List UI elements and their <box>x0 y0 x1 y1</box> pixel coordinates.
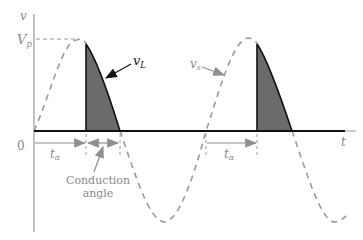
origin-label: 0 <box>17 140 25 152</box>
vs-label: vs <box>190 58 201 72</box>
conduction-leader <box>94 147 103 172</box>
vl-leader <box>106 64 131 78</box>
load-pulse-1 <box>86 44 120 131</box>
t-alpha-label-2: tα <box>224 148 234 162</box>
conduction-angle-label: Conduction angle <box>66 174 130 200</box>
vs-leader <box>202 67 224 75</box>
waveform-diagram <box>0 0 363 240</box>
load-pulse-2 <box>257 44 292 131</box>
vl-label: vL <box>133 54 146 69</box>
x-axis-label: t <box>341 136 346 148</box>
y-axis-label: v <box>20 10 27 22</box>
vp-label: Vp <box>17 33 32 48</box>
t-alpha-label-1: tα <box>50 148 60 162</box>
